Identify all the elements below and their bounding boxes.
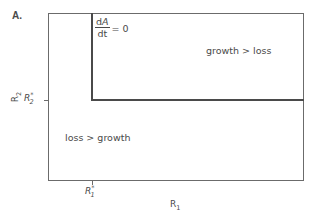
region-label-loss-gt-growth: loss > growth bbox=[65, 132, 130, 143]
zngi-vertical-segment bbox=[91, 13, 93, 101]
x-axis-label: R1 bbox=[170, 199, 180, 209]
numerator-var: A bbox=[102, 16, 109, 27]
zngi-horizontal-segment bbox=[91, 99, 304, 101]
plot-frame bbox=[48, 13, 304, 181]
x-tick-sub: 1 bbox=[91, 191, 95, 199]
y-axis-label-sub: 2 bbox=[15, 92, 23, 96]
equals-zero: = 0 bbox=[112, 23, 129, 34]
derivative-fraction: dA dt bbox=[95, 17, 110, 39]
fraction-numerator: dA bbox=[95, 17, 110, 28]
isocline-equation: dA dt = 0 bbox=[95, 17, 129, 39]
y-axis-tick bbox=[44, 100, 48, 101]
x-axis-label-sub: 1 bbox=[176, 204, 180, 212]
y-tick-label: R*2 bbox=[24, 93, 34, 103]
y-axis-label: R2 bbox=[10, 92, 20, 102]
y-axis-label-base: R bbox=[10, 96, 20, 102]
region-label-growth-gt-loss: growth > loss bbox=[206, 45, 271, 56]
panel-label: A. bbox=[12, 10, 22, 21]
x-tick-label: R*1 bbox=[85, 186, 95, 196]
y-tick-sub: 2 bbox=[30, 98, 34, 106]
fraction-denominator: dt bbox=[97, 28, 107, 39]
